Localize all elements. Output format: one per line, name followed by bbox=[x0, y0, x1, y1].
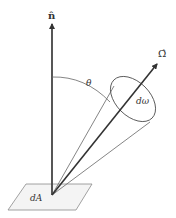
area-patch bbox=[8, 184, 92, 210]
direction-vector bbox=[52, 64, 157, 195]
cone-edge-upper bbox=[52, 86, 114, 195]
theta-label: θ bbox=[86, 78, 92, 88]
area-label: dA bbox=[30, 193, 43, 203]
solid-angle-label: dω bbox=[136, 96, 150, 106]
normal-label: n̂ bbox=[48, 10, 56, 21]
direction-label: Ω̂ bbox=[158, 48, 166, 59]
solid-angle-diagram: n̂ Ω̂ θ dω dA bbox=[0, 0, 176, 218]
theta-arc bbox=[52, 77, 110, 102]
